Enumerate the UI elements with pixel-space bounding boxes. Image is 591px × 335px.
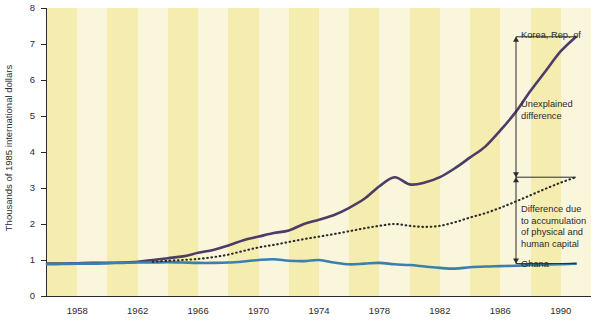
arrow-head-up [513, 37, 519, 42]
annotation-unexplained-difference: Unexplained difference [521, 99, 573, 122]
chart-figure: Thousands of 1985 international dollars … [0, 0, 591, 335]
arrow-head-down [513, 259, 519, 264]
arrow-head-up [513, 177, 519, 182]
series-layer [0, 0, 591, 335]
annotation-ghana-label: Ghana [521, 259, 549, 271]
series-line [47, 259, 576, 268]
series-line [47, 37, 576, 264]
annotation-korea-label: Korea, Rep. of [521, 30, 581, 42]
annotation-capital-difference: Difference due to accumulation of physic… [521, 204, 586, 250]
arrow-head-down [513, 172, 519, 177]
